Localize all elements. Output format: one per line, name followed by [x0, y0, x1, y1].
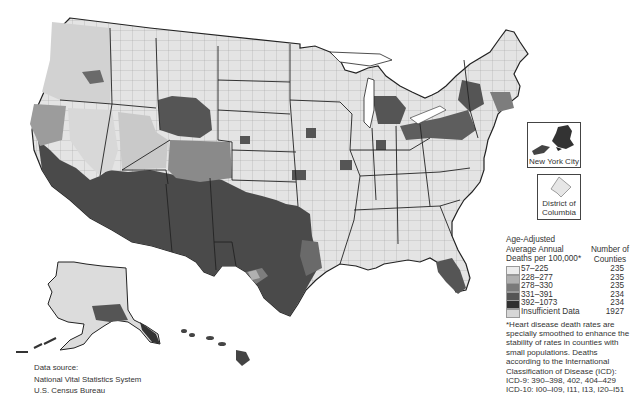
midwest-dark-patch: [240, 136, 250, 144]
legend-swatch: [506, 309, 520, 318]
dc-inset-label: District of Columbia: [538, 199, 580, 217]
legend-footnote: *Heart disease death rates are specially…: [506, 320, 632, 395]
icd9-codes: ICD-9: 390–398, 402, 404–429: [506, 376, 632, 385]
legend-row: Insufficient Data1927: [506, 308, 632, 317]
colorado-mixed-region: [168, 140, 232, 182]
legend-count: 1927: [606, 308, 624, 317]
count-header-line1: Number of: [590, 245, 630, 255]
midwest-dark-patch: [292, 170, 306, 180]
alaska: [16, 262, 160, 352]
legend-title-line3: Deaths per 100,000*: [506, 254, 590, 264]
legend-count-header: Number of Counties: [590, 245, 630, 264]
dc-map-icon: [539, 175, 579, 199]
legend-title: Age-Adjusted Average Annual Deaths per 1…: [506, 235, 590, 264]
new-york-city-inset: New York City: [527, 122, 581, 168]
dc-label-line1: District of: [542, 199, 575, 208]
source-nvss: National Vital Statistics System: [34, 374, 141, 386]
legend-range: Insufficient Data: [521, 308, 580, 317]
midwest-dark-patch: [376, 140, 386, 150]
legend-title-line1: Age-Adjusted: [506, 235, 590, 245]
icd10-codes: ICD-10: I00–I09, I11, I13, I20–I51: [506, 385, 632, 394]
nyc-map-icon: [528, 123, 580, 157]
midwest-dark-patch: [340, 160, 352, 170]
nyc-inset-label: New York City: [528, 157, 580, 166]
hawaii: [181, 329, 250, 366]
legend-title-line2: Average Annual: [506, 245, 590, 255]
count-header-line2: Counties: [590, 255, 630, 265]
source-census: U.S. Census Bureau: [34, 385, 141, 397]
source-label: Data source:: [34, 362, 141, 374]
pacific-nw-region: [42, 22, 112, 104]
midwest-dark-patch: [306, 128, 316, 138]
footnote-text: *Heart disease death rates are specially…: [506, 320, 632, 376]
map-legend: Age-Adjusted Average Annual Deaths per 1…: [506, 235, 632, 395]
district-of-columbia-inset: District of Columbia: [537, 174, 581, 220]
dc-label-line2: Columbia: [542, 208, 576, 217]
data-source: Data source: National Vital Statistics S…: [34, 362, 141, 397]
